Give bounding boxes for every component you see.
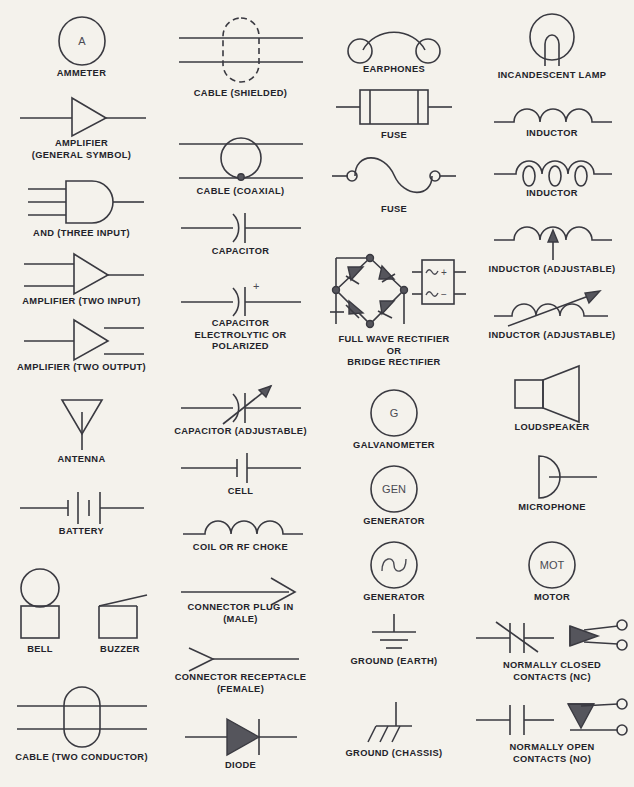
symbol-label-inductor-adjustable-arrow: INDUCTOR (ADJUSTABLE): [470, 264, 634, 276]
symbol-cell-cable-shielded: CABLE (SHIELDED): [163, 14, 318, 100]
inductor-loops-symbol: [482, 154, 622, 186]
earphones-symbol: [339, 18, 449, 62]
symbol-label-loudspeaker: LOUDSPEAKER: [470, 422, 634, 434]
symbol-label-cable-two-conductor: CABLE (TWO CONDUCTOR): [0, 752, 163, 764]
symbol-column-4: INCANDESCENT LAMP INDUCTOR INDUCTOR: [470, 0, 634, 787]
symbol-cell-buzzer: BUZZER: [82, 566, 158, 656]
fuse-box-symbol: [324, 86, 464, 128]
diode-symbol: [171, 716, 311, 758]
symbol-cell-fuse-box: FUSE: [318, 86, 470, 142]
symbol-label-capacitor: CAPACITOR: [163, 246, 318, 258]
symbol-label-galvanometer: GALVANOMETER: [318, 440, 470, 452]
amplifier-two-output-symbol: [12, 318, 152, 360]
symbol-label-microphone: MICROPHONE: [470, 502, 634, 514]
symbol-label-ground-chassis: GROUND (CHASSIS): [318, 748, 470, 760]
motor-symbol: MOT: [512, 540, 592, 590]
symbol-cell-cell: CELL: [163, 452, 318, 498]
symbol-label-and-three-input: AND (THREE INPUT): [0, 228, 163, 240]
ground-earth-symbol: [354, 612, 434, 654]
symbol-cell-motor: MOT MOTOR: [470, 540, 634, 604]
symbol-label-antenna: ANTENNA: [0, 454, 163, 466]
capacitor-electrolytic-symbol: +: [171, 278, 311, 316]
galvanometer-glyph-text: G: [390, 407, 399, 419]
symbol-cell-normally-closed-contacts: NORMALLY CLOSED CONTACTS (NC): [470, 618, 634, 683]
symbol-cell-inductor-adjustable-diagonal: INDUCTOR (ADJUSTABLE): [470, 286, 634, 342]
capacitor-adjustable-symbol: [171, 382, 311, 424]
symbol-cell-inductor-adjustable-arrow: INDUCTOR (ADJUSTABLE): [470, 218, 634, 276]
symbol-label-diode: DIODE: [163, 760, 318, 772]
fuse-s-curve-symbol: [324, 148, 464, 202]
symbol-cell-ground-chassis: GROUND (CHASSIS): [318, 700, 470, 760]
symbol-label-ammeter: AMMETER: [0, 68, 163, 80]
symbol-cell-coil-rf-choke: COIL OR RF CHOKE: [163, 512, 318, 554]
symbol-cell-microphone: MICROPHONE: [470, 452, 634, 514]
symbol-label-cable-coaxial: CABLE (COAXIAL): [163, 186, 318, 198]
symbol-cell-amplifier-two-output: AMPLIFIER (TWO OUTPUT): [0, 318, 163, 374]
cable-two-conductor-symbol: [7, 684, 157, 750]
symbol-label-motor: MOTOR: [470, 592, 634, 604]
full-wave-rectifier-symbol: + −: [318, 246, 470, 332]
symbol-label-earphones: EARPHONES: [318, 64, 470, 76]
symbol-cell-connector-receptacle-female: CONNECTOR RECEPTACLE (FEMALE): [163, 644, 318, 695]
generator-sine-symbol: [354, 540, 434, 590]
symbol-label-buzzer: BUZZER: [82, 644, 158, 656]
symbol-label-amplifier-two-input: AMPLIFIER (TWO INPUT): [0, 296, 163, 308]
symbol-label-incandescent-lamp: INCANDESCENT LAMP: [470, 70, 634, 82]
symbol-label-normally-open-contacts: NORMALLY OPEN CONTACTS (NO): [470, 742, 634, 765]
symbol-label-capacitor-electrolytic: CAPACITOR ELECTROLYTIC OR POLARIZED: [163, 318, 318, 353]
inductor-adjustable-diagonal-symbol: [482, 286, 622, 328]
rectifier-plus-glyph: +: [441, 267, 447, 278]
ammeter-glyph-text: A: [78, 35, 86, 47]
symbol-label-connector-receptacle-female: CONNECTOR RECEPTACLE (FEMALE): [163, 672, 318, 695]
and-gate-three-input-symbol: [12, 178, 152, 226]
normally-open-contacts-symbol: [470, 700, 634, 740]
symbol-label-ground-earth: GROUND (EARTH): [318, 656, 470, 668]
antenna-symbol: [37, 394, 127, 452]
symbol-cell-full-wave-rectifier: + − FULL WAVE RECTIFIER OR BRIDGE RECTIF…: [318, 246, 470, 369]
symbol-column-1: A AMMETER AMPLIFIER (GENERAL SYMBOL) AND…: [0, 0, 163, 787]
symbol-label-inductor-loops: INDUCTOR: [470, 188, 634, 200]
symbol-label-capacitor-adjustable: CAPACITOR (ADJUSTABLE): [163, 426, 318, 438]
capacitor-symbol: [171, 212, 311, 244]
symbol-column-2: CABLE (SHIELDED) CABLE (COAXIAL) CAPACIT…: [163, 0, 318, 787]
inductor-air-core-symbol: [482, 100, 622, 126]
symbol-cell-antenna: ANTENNA: [0, 394, 163, 466]
microphone-symbol: [497, 452, 607, 500]
symbol-label-cell: CELL: [163, 486, 318, 498]
cable-shielded-symbol: [171, 14, 311, 86]
coil-rf-choke-symbol: [171, 512, 311, 540]
symbol-cell-capacitor-adjustable: CAPACITOR (ADJUSTABLE): [163, 382, 318, 438]
connector-plug-male-symbol: [171, 574, 311, 600]
symbol-label-full-wave-rectifier: FULL WAVE RECTIFIER OR BRIDGE RECTIFIER: [318, 334, 470, 369]
symbol-cell-incandescent-lamp: INCANDESCENT LAMP: [470, 12, 634, 82]
symbol-cell-generator-gen: GEN GENERATOR: [318, 464, 470, 528]
symbol-label-normally-closed-contacts: NORMALLY CLOSED CONTACTS (NC): [470, 660, 634, 683]
symbol-chart-sheet: A AMMETER AMPLIFIER (GENERAL SYMBOL) AND…: [0, 0, 634, 787]
symbol-cell-earphones: EARPHONES: [318, 18, 470, 76]
symbol-cell-fuse-s-curve: FUSE: [318, 148, 470, 216]
symbol-cell-amplifier-two-input: AMPLIFIER (TWO INPUT): [0, 252, 163, 308]
ammeter-symbol: A: [42, 16, 122, 66]
symbol-cell-inductor-loops: INDUCTOR: [470, 154, 634, 200]
loudspeaker-symbol: [497, 364, 607, 420]
inductor-adjustable-arrow-symbol: [482, 218, 622, 262]
symbol-cell-battery: BATTERY: [0, 490, 163, 538]
cable-coaxial-symbol: [171, 136, 311, 184]
normally-closed-contacts-symbol: [470, 618, 634, 658]
symbol-cell-amplifier-general: AMPLIFIER (GENERAL SYMBOL): [0, 94, 163, 161]
symbol-label-inductor-adjustable-diagonal: INDUCTOR (ADJUSTABLE): [470, 330, 634, 342]
symbol-label-connector-plug-male: CONNECTOR PLUG IN (MALE): [163, 602, 318, 625]
bell-symbol: [9, 566, 71, 642]
ground-chassis-symbol: [354, 700, 434, 746]
symbol-label-fuse-box: FUSE: [318, 130, 470, 142]
symbol-cell-loudspeaker: LOUDSPEAKER: [470, 364, 634, 434]
symbol-label-coil-rf-choke: COIL OR RF CHOKE: [163, 542, 318, 554]
symbol-cell-generator-sine: GENERATOR: [318, 540, 470, 604]
symbol-cell-connector-plug-male: CONNECTOR PLUG IN (MALE): [163, 574, 318, 625]
battery-symbol: [12, 490, 152, 524]
symbol-label-fuse-s-curve: FUSE: [318, 204, 470, 216]
symbol-label-inductor-air-core: INDUCTOR: [470, 128, 634, 140]
capacitor-polarity-glyph: +: [253, 280, 259, 292]
symbol-cell-capacitor-electrolytic: + CAPACITOR ELECTROLYTIC OR POLARIZED: [163, 278, 318, 353]
amplifier-two-input-symbol: [12, 252, 152, 294]
